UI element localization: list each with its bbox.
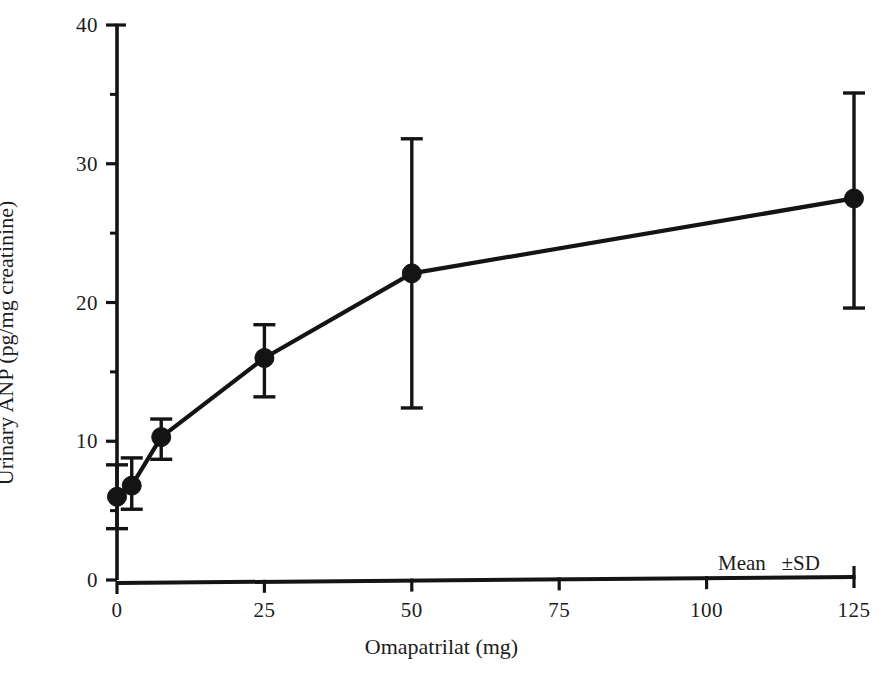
y-tick-label-30: 30 xyxy=(40,151,98,176)
y-tick-label-0: 0 xyxy=(40,568,98,593)
datapoint-group-0 xyxy=(106,465,128,529)
mean-sd-annotation: Mean ±SD xyxy=(697,526,820,601)
x-tick-label-50: 50 xyxy=(401,598,423,623)
y-axis-title-text: Urinary ANP (pg/mg creatinine) xyxy=(0,200,19,485)
y-axis-title: Urinary ANP (pg/mg creatinine) xyxy=(0,200,19,485)
y-tick-label-20: 20 xyxy=(40,290,98,315)
datapoint-group-5 xyxy=(843,93,865,308)
data-marker-1 xyxy=(122,476,141,495)
x-tick-label-125: 125 xyxy=(838,598,871,623)
x-tick-label-25: 25 xyxy=(253,598,275,623)
y-tick-label-40: 40 xyxy=(40,13,98,38)
mean-sd-annotation-text: Mean ±SD xyxy=(718,551,820,575)
series-line-0 xyxy=(117,198,854,496)
data-marker-3 xyxy=(255,349,274,368)
x-tick-label-100: 100 xyxy=(690,598,723,623)
data-marker-5 xyxy=(845,189,864,208)
datapoint-group-3 xyxy=(253,325,275,397)
x-tick-label-0: 0 xyxy=(112,598,123,623)
datapoint-group-4 xyxy=(401,139,423,408)
data-marker-2 xyxy=(152,428,171,447)
x-axis-title-text: Omapatrilat (mg) xyxy=(365,634,518,659)
y-tick-label-10: 10 xyxy=(40,429,98,454)
x-axis-title: Omapatrilat (mg) xyxy=(0,634,883,660)
x-tick-label-75: 75 xyxy=(548,598,570,623)
chart-container: Urinary ANP (pg/mg creatinine) Omapatril… xyxy=(0,0,883,685)
data-marker-4 xyxy=(402,264,421,283)
